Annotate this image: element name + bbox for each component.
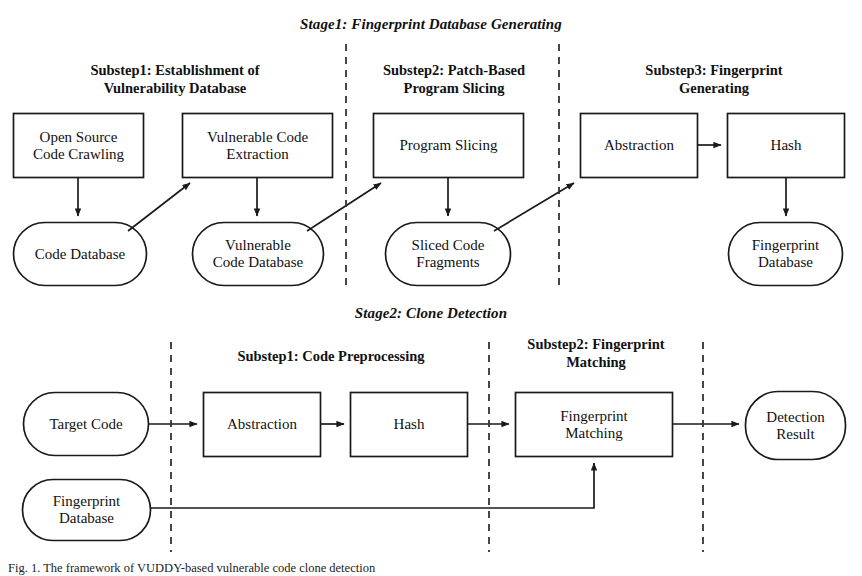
label-fingerprint-database-2: Fingerprint Database <box>22 479 151 541</box>
label-open-source-code-crawling: Open Source Code Crawling <box>13 113 144 178</box>
stage1-substep-2-title: Substep2: Patch-Based Program Slicing <box>356 60 552 100</box>
label-abstraction: Abstraction <box>580 113 698 178</box>
label-vulnerable-code-extraction: Vulnerable Code Extraction <box>182 113 333 178</box>
label-target-code: Target Code <box>23 392 149 456</box>
stage1-title: Stage1: Fingerprint Database Generating <box>231 14 631 34</box>
label-fingerprint-database: Fingerprint Database <box>728 222 843 286</box>
label-code-database: Code Database <box>13 222 147 286</box>
label-vulnerable-code-database: Vulnerable Code Database <box>192 222 324 286</box>
label-detection-result: Detection Result <box>745 391 846 460</box>
label-hash-2: Hash <box>350 392 468 457</box>
arrow-fingerprint-db-to-matching <box>150 463 594 508</box>
label-abstraction-2: Abstraction <box>203 392 321 457</box>
label-fingerprint-matching: Fingerprint Matching <box>515 392 673 457</box>
stage2-title: Stage2: Clone Detection <box>331 303 531 323</box>
label-sliced-code-fragments: Sliced Code Fragments <box>385 222 511 286</box>
stage1-substep-3-title: Substep3: Fingerprint Generating <box>596 60 832 100</box>
stage2-substep-1-title: Substep1: Code Preprocessing <box>181 337 481 377</box>
label-hash: Hash <box>727 113 845 178</box>
figure-caption: Fig. 1. The framework of VUDDY-based vul… <box>8 560 708 576</box>
stage2-substep-2-title: Substep2: Fingerprint Matching <box>497 331 695 377</box>
stage1-substep-1-title: Substep1: Establishment of Vulnerability… <box>15 60 335 100</box>
label-program-slicing: Program Slicing <box>373 113 524 178</box>
